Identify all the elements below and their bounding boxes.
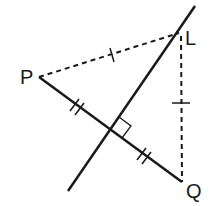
perpendicular-bisector	[68, 6, 195, 191]
label-q: Q	[186, 180, 202, 202]
right-angle-marker	[119, 117, 131, 138]
label-l: L	[185, 27, 196, 49]
label-p: P	[20, 66, 33, 88]
diagram-canvas: P L Q	[0, 0, 216, 206]
segment-lq	[181, 36, 182, 182]
segment-pl	[39, 33, 179, 77]
